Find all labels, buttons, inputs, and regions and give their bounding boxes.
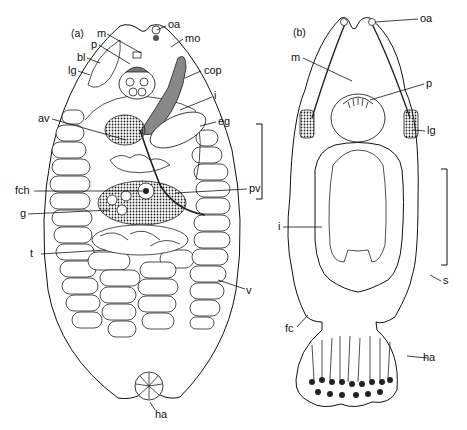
label-fch-a: fch bbox=[15, 184, 30, 196]
label-ha-b: ha bbox=[423, 351, 436, 363]
panel-a: (a) oa m mo p bl lg cop i av bbox=[15, 18, 262, 420]
haptor-b bbox=[309, 336, 393, 398]
label-i-a: i bbox=[214, 89, 216, 101]
anterior-vitelline-mass bbox=[105, 115, 145, 145]
label-av-a: av bbox=[38, 112, 50, 124]
label-p-a: p bbox=[91, 38, 97, 50]
leader-lines-b bbox=[283, 19, 441, 358]
label-lg-a: lg bbox=[68, 64, 77, 76]
label-p-b: p bbox=[426, 77, 432, 89]
label-i-b: i bbox=[278, 220, 280, 232]
label-bl-a: bl bbox=[77, 51, 86, 63]
pharynx-a bbox=[119, 52, 155, 99]
vaginal-structure-a bbox=[110, 154, 170, 172]
label-m-b: m bbox=[291, 51, 300, 63]
lateral-gland-left-b bbox=[300, 110, 314, 138]
vitellaria-left bbox=[50, 110, 102, 328]
panel-b: (b) oa m p lg i s fc ha bbox=[278, 12, 449, 407]
label-oa-b: oa bbox=[420, 12, 433, 24]
label-ha-a: ha bbox=[155, 408, 168, 420]
testis-a bbox=[92, 225, 188, 255]
label-g-a: g bbox=[20, 207, 26, 219]
label-cop-a: cop bbox=[204, 64, 222, 76]
intestine-inner-b bbox=[329, 150, 386, 262]
label-m-a: m bbox=[97, 27, 106, 39]
label-lg-b: lg bbox=[427, 124, 436, 136]
panel-label-b: (b) bbox=[293, 26, 306, 38]
panel-label-a: (a) bbox=[71, 27, 84, 39]
intestine-b bbox=[315, 143, 404, 293]
pharynx-b bbox=[331, 94, 385, 142]
vitellaria-right bbox=[190, 130, 230, 329]
oral-apparatus-a bbox=[152, 26, 160, 41]
haptor-a bbox=[135, 372, 163, 400]
lateral-gland-right-b bbox=[404, 110, 418, 138]
label-s-b: s bbox=[443, 274, 449, 286]
label-mo-a: mo bbox=[185, 32, 200, 44]
scale-bar-b bbox=[441, 169, 447, 265]
body-outline-b bbox=[288, 18, 418, 407]
label-eg-a: eg bbox=[218, 115, 230, 127]
label-t-a: t bbox=[30, 247, 33, 259]
label-v-a: v bbox=[246, 284, 252, 296]
label-oa-a: oa bbox=[168, 18, 181, 30]
label-fc-b: fc bbox=[285, 322, 294, 334]
label-pv-a: pv bbox=[249, 182, 261, 194]
vitellaria-mid-right bbox=[138, 250, 194, 329]
figure-canvas: (a) oa m mo p bl lg cop i av bbox=[0, 0, 467, 430]
